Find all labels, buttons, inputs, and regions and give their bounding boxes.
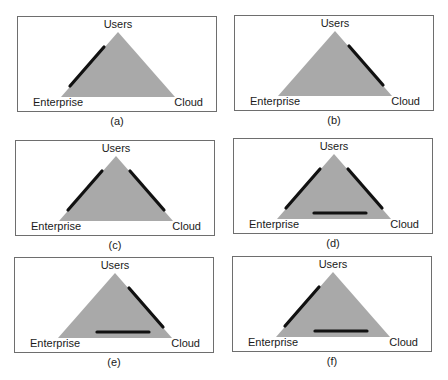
panel-e: Users Enterprise Cloud — [14, 257, 214, 353]
label-enterprise: Enterprise — [30, 337, 80, 349]
caption-c: (c) — [15, 239, 215, 251]
label-cloud: Cloud — [389, 336, 418, 348]
panel-b: Users Enterprise Cloud — [234, 15, 434, 111]
panel-f: Users Enterprise Cloud — [232, 256, 432, 352]
triangle — [278, 31, 392, 96]
triangle — [59, 156, 173, 221]
label-users: Users — [104, 18, 133, 30]
label-cloud: Cloud — [174, 96, 203, 108]
triangle — [276, 272, 390, 337]
panel-d: Users Enterprise Cloud — [233, 138, 433, 234]
label-enterprise: Enterprise — [250, 95, 300, 107]
label-enterprise: Enterprise — [33, 96, 83, 108]
label-cloud: Cloud — [171, 337, 200, 349]
panel-a: Users Enterprise Cloud — [17, 16, 217, 112]
label-users: Users — [319, 258, 348, 270]
label-enterprise: Enterprise — [248, 336, 298, 348]
triangle — [277, 154, 391, 219]
label-users: Users — [320, 140, 349, 152]
caption-f: (f) — [232, 355, 432, 367]
panel-c: Users Enterprise Cloud — [15, 140, 215, 236]
label-enterprise: Enterprise — [249, 218, 299, 230]
caption-b: (b) — [234, 114, 434, 126]
label-cloud: Cloud — [390, 218, 419, 230]
caption-d: (d) — [233, 237, 433, 249]
label-enterprise: Enterprise — [31, 220, 81, 232]
caption-a: (a) — [17, 115, 217, 127]
label-users: Users — [101, 259, 130, 271]
label-users: Users — [321, 17, 350, 29]
label-cloud: Cloud — [391, 95, 420, 107]
triangle — [58, 273, 172, 338]
caption-e: (e) — [14, 356, 214, 368]
triangle — [61, 32, 175, 97]
label-cloud: Cloud — [172, 220, 201, 232]
label-users: Users — [102, 142, 131, 154]
